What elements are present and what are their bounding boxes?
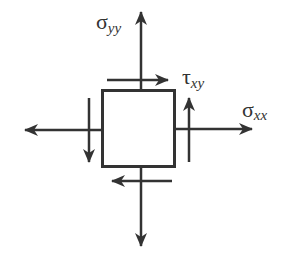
sigma-xx-label: σxx	[242, 97, 268, 123]
stress-element-square	[103, 91, 175, 167]
stress-element-diagram: σyy τxy σxx	[0, 0, 292, 253]
diagram-svg: σyy τxy σxx	[0, 0, 292, 253]
tau-xy-label: τxy	[182, 64, 205, 91]
sigma-yy-label: σyy	[96, 9, 122, 36]
